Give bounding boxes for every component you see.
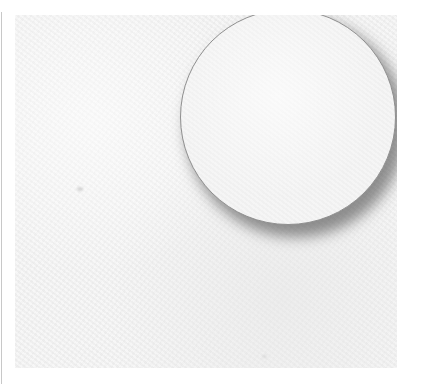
- left-border-line: [1, 12, 2, 384]
- textured-paper-background: [15, 15, 397, 368]
- paper-speck: [77, 187, 83, 191]
- paper-speck: [262, 355, 267, 358]
- shadowed-circle-shape: [180, 15, 396, 225]
